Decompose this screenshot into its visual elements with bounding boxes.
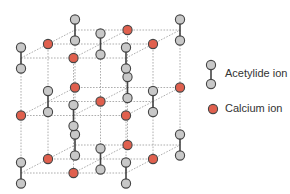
legend <box>206 60 217 113</box>
legend-calcium-label: Calcium ion <box>225 102 282 114</box>
legend-acetylide-icon <box>206 60 215 88</box>
calcium-ion-node <box>123 25 132 34</box>
calcium-ion-node <box>148 39 157 48</box>
legend-acetylide-label: Acetylide ion <box>225 67 287 79</box>
calcium-ion-node <box>43 39 52 48</box>
calcium-ion-node <box>69 53 78 62</box>
calcium-ion-node <box>96 97 105 106</box>
calcium-ion-node <box>148 154 157 163</box>
crystal-lattice-diagram <box>0 0 290 194</box>
calcium-ion-node <box>16 111 25 120</box>
calcium-ion-node <box>175 83 184 92</box>
calcium-ion-node <box>43 154 52 163</box>
calcium-ion-node <box>123 140 132 149</box>
calcium-ion-node <box>70 83 79 92</box>
calcium-ion-node <box>121 111 130 120</box>
legend-calcium-icon <box>208 104 217 113</box>
calcium-ion-node <box>69 168 78 177</box>
